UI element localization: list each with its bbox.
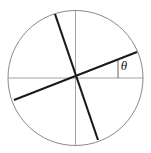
circle-diagram-svg: θ	[0, 0, 151, 153]
theta-angle-label: θ	[121, 58, 128, 73]
figure-container: θ	[0, 0, 151, 153]
